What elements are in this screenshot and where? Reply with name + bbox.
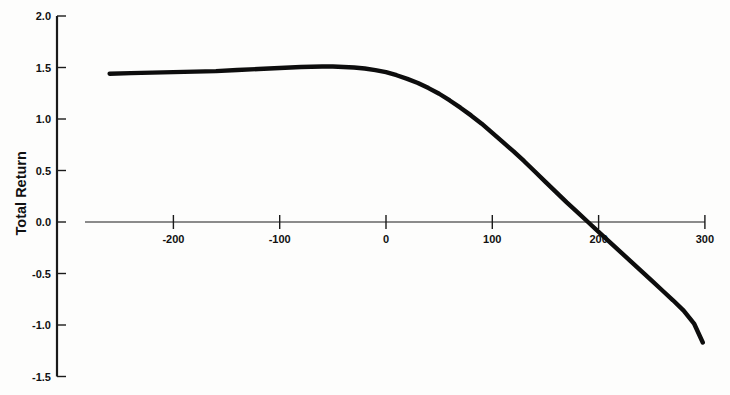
y-tick-label: -1.5 bbox=[32, 371, 51, 383]
y-tick-label: 0.0 bbox=[36, 216, 51, 228]
x-axis: -200-1000100200300 bbox=[85, 215, 714, 245]
chart-canvas: -1.5-1.0-0.50.00.51.01.52.0 -200-1000100… bbox=[0, 0, 730, 395]
y-tick-label: 1.5 bbox=[36, 62, 51, 74]
x-tick-label: -200 bbox=[162, 233, 184, 245]
chart-figure: -1.5-1.0-0.50.00.51.01.52.0 -200-1000100… bbox=[0, 0, 730, 395]
y-tick-label: 1.0 bbox=[36, 113, 51, 125]
y-tick-label: -1.0 bbox=[32, 319, 51, 331]
data-curve bbox=[110, 66, 703, 342]
x-tick-label: 300 bbox=[696, 233, 714, 245]
y-tick-label: 2.0 bbox=[36, 10, 51, 22]
data-series-group bbox=[110, 66, 703, 342]
y-axis-title-group: Total Return bbox=[13, 151, 29, 235]
y-tick-label: -0.5 bbox=[32, 268, 51, 280]
y-tick-label: 0.5 bbox=[36, 165, 51, 177]
x-tick-label: -100 bbox=[269, 233, 291, 245]
x-tick-label: 0 bbox=[383, 233, 389, 245]
y-axis-title: Total Return bbox=[13, 151, 29, 235]
x-tick-label: 100 bbox=[483, 233, 501, 245]
y-axis: -1.5-1.0-0.50.00.51.01.52.0 bbox=[32, 10, 66, 383]
